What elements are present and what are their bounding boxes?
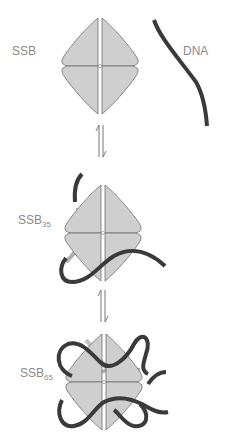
ssb65-label: SSB65: [20, 366, 53, 382]
ssdna-strand: [154, 20, 207, 126]
ssdna-strand-35-in: [75, 174, 82, 202]
ssb35-state: SSB35: [18, 174, 165, 282]
ssb35-label: SSB35: [18, 213, 51, 229]
ssb65-state: SSB65: [20, 334, 168, 430]
ssb-free-state: SSB DNA: [12, 18, 208, 126]
ssb-binding-diagram: SSB DNA SSB35 SSB65: [0, 0, 228, 440]
ssb-label: SSB: [12, 44, 36, 58]
equilibrium-arrow-1: [96, 125, 106, 157]
equilibrium-arrow-2: [98, 290, 108, 322]
ssb-tetramer-free: [62, 18, 138, 114]
dna-label: DNA: [183, 44, 208, 58]
